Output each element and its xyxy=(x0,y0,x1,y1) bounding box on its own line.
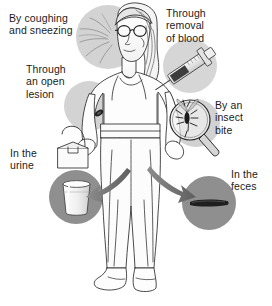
urine-specimen-cup-icon xyxy=(63,181,90,216)
label-by-an-insect-bite: By an insect bite xyxy=(215,99,243,136)
transmission-routes-diagram: By coughing and sneezing Through an open… xyxy=(0,0,272,306)
label-by-coughing-and-sneezing: By coughing and sneezing xyxy=(9,12,73,37)
diagram-artwork xyxy=(0,0,272,306)
label-through-removal-of-blood: Through removal of blood xyxy=(166,7,206,44)
label-through-an-open-lesion: Through an open lesion xyxy=(26,63,66,100)
label-in-the-feces: In the feces xyxy=(231,168,258,193)
feces-smear-icon xyxy=(190,200,229,207)
label-in-the-urine: In the urine xyxy=(10,147,37,172)
